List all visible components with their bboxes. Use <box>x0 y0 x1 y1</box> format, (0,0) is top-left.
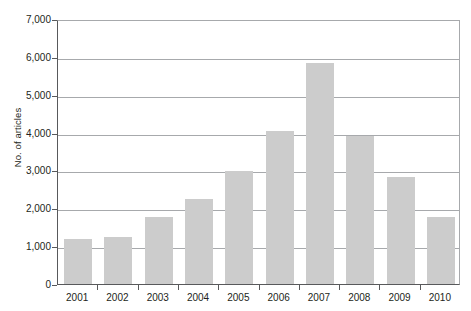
x-tick-mark-1 <box>97 285 98 290</box>
bar-2004 <box>185 199 213 284</box>
x-tick-mark-3 <box>178 285 179 290</box>
y-tick-label-7000: 7,000 <box>0 15 51 25</box>
y-tick-label-0: 0 <box>0 280 51 290</box>
x-tick-label-2009: 2009 <box>377 292 423 304</box>
x-tick-mark-5 <box>259 285 260 290</box>
x-tick-mark-7 <box>339 285 340 290</box>
y-tick-mark-2000 <box>52 209 57 210</box>
y-tick-mark-4000 <box>52 134 57 135</box>
x-tick-mark-2 <box>138 285 139 290</box>
y-tick-mark-0 <box>52 285 57 286</box>
x-tick-mark-6 <box>299 285 300 290</box>
y-tick-mark-1000 <box>52 247 57 248</box>
bar-2010 <box>427 217 455 284</box>
gridline-6000 <box>58 59 459 60</box>
bar-2003 <box>145 217 173 284</box>
x-tick-label-2006: 2006 <box>256 292 302 304</box>
x-tick-label-2003: 2003 <box>135 292 181 304</box>
gridline-3000 <box>58 172 459 173</box>
x-tick-label-2002: 2002 <box>94 292 140 304</box>
x-tick-label-2005: 2005 <box>215 292 261 304</box>
plot-area <box>57 20 460 285</box>
x-tick-mark-9 <box>420 285 421 290</box>
bar-2008 <box>346 136 374 284</box>
gridline-4000 <box>58 135 459 136</box>
y-tick-mark-5000 <box>52 96 57 97</box>
y-tick-label-6000: 6,000 <box>0 53 51 63</box>
y-tick-mark-7000 <box>52 20 57 21</box>
gridline-5000 <box>58 97 459 98</box>
bar-2007 <box>306 63 334 284</box>
bar-2006 <box>266 131 294 284</box>
y-tick-label-4000: 4,000 <box>0 129 51 139</box>
y-tick-mark-3000 <box>52 171 57 172</box>
x-tick-label-2007: 2007 <box>296 292 342 304</box>
bar-2009 <box>387 177 415 285</box>
y-tick-label-5000: 5,000 <box>0 91 51 101</box>
y-tick-label-3000: 3,000 <box>0 166 51 176</box>
x-tick-label-2010: 2010 <box>417 292 463 304</box>
bar-2005 <box>225 171 253 284</box>
y-tick-label-2000: 2,000 <box>0 204 51 214</box>
bar-2002 <box>104 237 132 284</box>
x-tick-label-2001: 2001 <box>54 292 100 304</box>
y-tick-label-1000: 1,000 <box>0 242 51 252</box>
y-tick-mark-6000 <box>52 58 57 59</box>
x-tick-label-2008: 2008 <box>336 292 382 304</box>
bar-chart: No. of articles 01,0002,0003,0004,0005,0… <box>0 0 471 311</box>
bar-2001 <box>64 239 92 284</box>
x-tick-mark-4 <box>218 285 219 290</box>
x-tick-label-2004: 2004 <box>175 292 221 304</box>
x-tick-mark-8 <box>379 285 380 290</box>
